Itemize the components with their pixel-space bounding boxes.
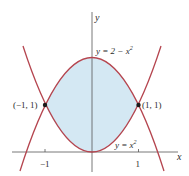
point-neg1-1 [43,103,47,107]
x-tick-label-1: 1 [136,159,141,169]
x-tick-label-neg1: −1 [40,159,50,169]
point-1-1 [136,103,140,107]
point-label-neg1-1: (−1, 1) [13,100,38,110]
label-x-squared: y = x2 [114,139,137,150]
label-two-minus-x-squared-exp: 2 [130,45,133,51]
point-label-1-1: (1, 1) [142,100,162,110]
region-diagram: y x −1 1 (−1, 1) (1, 1) y = 2 − x2 y = x… [0,0,189,176]
label-x-squared-base: y = x [114,140,134,150]
label-two-minus-x-squared: y = 2 − x2 [95,45,133,56]
label-x-squared-exp: 2 [134,139,137,145]
x-axis-label: x [176,151,182,162]
label-two-minus-x-squared-base: y = 2 − x [95,46,130,56]
y-axis-label: y [94,12,100,23]
